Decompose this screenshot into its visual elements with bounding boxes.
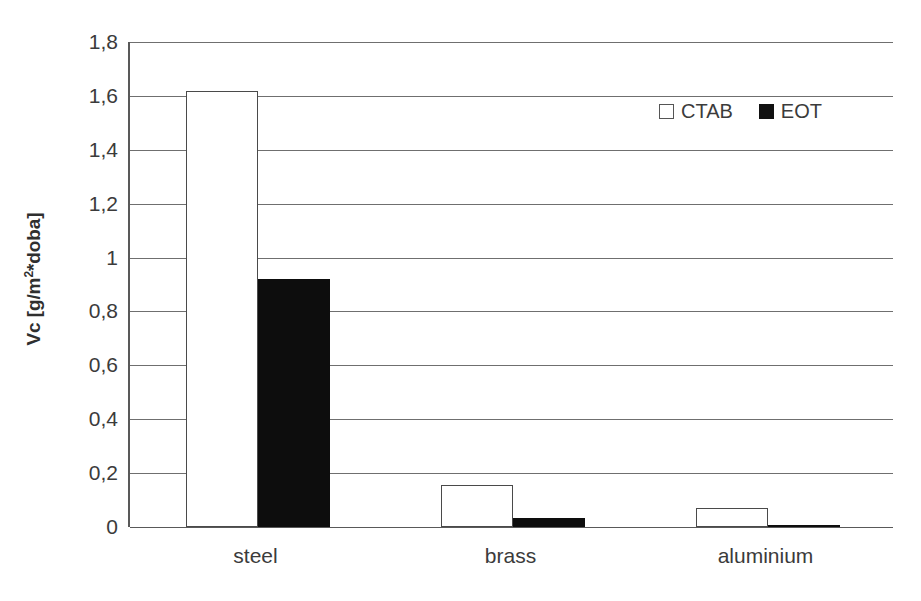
y-axis-tick-label: 0,4 xyxy=(60,408,118,429)
bar-chart: Vc [g/m2*doba] 00,20,40,60,811,21,41,61,… xyxy=(0,0,921,601)
y-axis-tick-label: 0,2 xyxy=(60,462,118,483)
y-axis-tick-labels: 00,20,40,60,811,21,41,61,8 xyxy=(54,0,118,601)
bar-brass-ctab xyxy=(441,485,513,527)
y-axis-tick-label: 0,6 xyxy=(60,354,118,375)
y-axis-tick-label: 1,8 xyxy=(60,31,118,52)
y-axis-title-superscript: 2 xyxy=(22,271,36,278)
legend-label: CTAB xyxy=(681,100,733,123)
gridline xyxy=(130,42,893,43)
bar-brass-eot xyxy=(513,518,585,527)
x-axis-tick-label-aluminium: aluminium xyxy=(638,545,893,566)
legend: CTABEOT xyxy=(659,100,822,123)
legend-label: EOT xyxy=(781,100,822,123)
legend-swatch-eot-icon xyxy=(759,104,774,119)
y-axis-tick-label: 1,6 xyxy=(60,85,118,106)
y-axis-title: Vc [g/m2*doba] xyxy=(23,169,45,389)
x-axis-tick-label-steel: steel xyxy=(128,545,383,566)
y-axis-tick-label: 1,4 xyxy=(60,139,118,160)
bar-steel-eot xyxy=(258,279,330,527)
y-axis-title-suffix: *doba] xyxy=(23,212,44,271)
bar-aluminium-eot xyxy=(768,525,840,527)
y-axis-tick-label: 1 xyxy=(60,247,118,268)
y-axis-tick-label: 0 xyxy=(60,516,118,537)
y-axis-tick-label: 0,8 xyxy=(60,300,118,321)
gridline xyxy=(130,527,893,528)
legend-entry-eot[interactable]: EOT xyxy=(759,100,822,123)
legend-entry-ctab[interactable]: CTAB xyxy=(659,100,733,123)
y-axis-title-prefix: Vc [g/m xyxy=(23,278,44,346)
x-axis-tick-label-brass: brass xyxy=(383,545,638,566)
legend-swatch-ctab-icon xyxy=(659,104,674,119)
bar-aluminium-ctab xyxy=(696,508,768,527)
y-axis-tick-label: 1,2 xyxy=(60,193,118,214)
bar-steel-ctab xyxy=(186,91,258,528)
